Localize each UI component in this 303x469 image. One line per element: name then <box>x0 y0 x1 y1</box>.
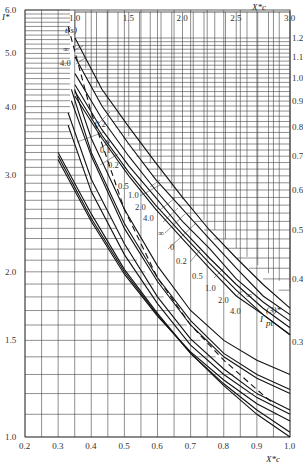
svg-text:1.0: 1.0 <box>205 283 216 293</box>
svg-text:0.2: 0.2 <box>108 160 119 170</box>
svg-text:2.5: 2.5 <box>230 13 242 23</box>
svg-text:2.0: 2.0 <box>218 295 229 305</box>
svg-text:0.4: 0.4 <box>85 441 97 451</box>
svg-text:0.3: 0.3 <box>52 441 64 451</box>
svg-text:2.0: 2.0 <box>5 267 17 277</box>
svg-text:0.7: 0.7 <box>292 151 303 161</box>
svg-text:0.2: 0.2 <box>176 256 187 266</box>
grid-upper-right <box>75 12 290 342</box>
svg-text:1.5: 1.5 <box>123 13 135 23</box>
svg-text:(3)*: (3)* <box>266 305 281 315</box>
grid-lower-left <box>25 10 290 437</box>
svg-text:1.0: 1.0 <box>5 432 17 442</box>
top-axis-label: X*c <box>251 2 266 12</box>
svg-text:0.4: 0.4 <box>292 274 303 284</box>
svg-text:4.0: 4.0 <box>60 58 71 68</box>
svg-text:I: I <box>259 314 264 324</box>
y-axis-label: I* <box>1 12 10 22</box>
svg-text:0.6: 0.6 <box>152 441 164 451</box>
t-legend-title: t(s) <box>65 25 77 35</box>
svg-text:0.5: 0.5 <box>192 271 203 281</box>
svg-text:1.5: 1.5 <box>5 335 17 345</box>
svg-text:0.8: 0.8 <box>292 122 303 132</box>
svg-text:0.7: 0.7 <box>185 441 197 451</box>
bottom-axis-label: X*c <box>265 454 280 464</box>
svg-text:4.0: 4.0 <box>143 213 154 223</box>
right-series-label: I (3)* pt <box>259 305 281 328</box>
svg-text:5.0: 5.0 <box>5 48 17 58</box>
svg-text:1.0: 1.0 <box>128 190 139 200</box>
svg-text:1.0: 1.0 <box>284 441 296 451</box>
svg-text:3.0: 3.0 <box>5 170 17 180</box>
svg-text:3.0: 3.0 <box>284 13 296 23</box>
svg-text:0.9: 0.9 <box>251 441 263 451</box>
svg-text:pt: pt <box>265 318 274 328</box>
svg-text:1.0: 1.0 <box>292 73 303 83</box>
svg-text:0.2: 0.2 <box>19 441 30 451</box>
svg-text:0.5: 0.5 <box>292 225 303 235</box>
svg-text:4.0: 4.0 <box>5 102 17 112</box>
svg-text:1.1: 1.1 <box>292 52 303 62</box>
svg-text:2.0: 2.0 <box>135 202 146 212</box>
svg-text:0.2: 0.2 <box>95 119 106 129</box>
svg-text:1.0: 1.0 <box>69 13 81 23</box>
svg-text:0.9: 0.9 <box>292 96 303 106</box>
svg-text:0.1: 0.1 <box>100 145 111 155</box>
svg-text:4.0: 4.0 <box>230 306 241 316</box>
svg-text:∞: ∞ <box>63 44 69 54</box>
svg-text:0.6: 0.6 <box>292 185 303 195</box>
svg-text:0: 0 <box>170 242 174 252</box>
svg-text:2.0: 2.0 <box>177 13 189 23</box>
svg-text:∞: ∞ <box>158 228 164 238</box>
svg-text:0.8: 0.8 <box>218 441 230 451</box>
tick-labels: 0.20.30.40.50.60.70.80.91.01.01.52.03.04… <box>5 5 303 451</box>
svg-text:1.2: 1.2 <box>292 33 303 43</box>
svg-text:∞: ∞ <box>246 290 252 300</box>
chart: 0.20.30.40.50.60.70.80.91.01.01.52.03.04… <box>0 0 303 469</box>
svg-text:0.5: 0.5 <box>118 441 130 451</box>
svg-text:0.3: 0.3 <box>292 337 303 347</box>
